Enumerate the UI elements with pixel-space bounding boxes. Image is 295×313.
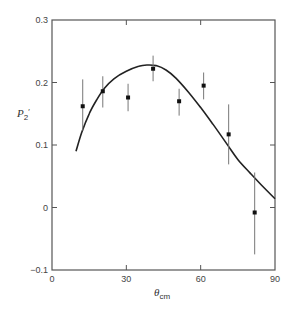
x-tick-label: 0 [49, 274, 54, 284]
point-marker [227, 132, 231, 136]
y-tick-labels: −0.100.10.20.3 [30, 15, 48, 275]
y-tick-label: 0.2 [35, 78, 48, 88]
data-point [101, 76, 105, 107]
data-point [202, 73, 206, 100]
data-point [253, 173, 257, 255]
y-axis-label: P2′ [16, 107, 30, 122]
point-marker [202, 84, 206, 88]
point-marker [177, 99, 181, 103]
x-tick-label: 30 [121, 274, 131, 284]
x-tick-label: 90 [270, 274, 280, 284]
data-point [227, 104, 231, 164]
x-tick-labels: 0306090 [49, 274, 280, 284]
data-point [151, 56, 155, 82]
y-tick-label: 0 [43, 203, 48, 213]
x-axis-label: θcm [154, 286, 170, 301]
curve-path [76, 65, 275, 199]
theory-curve [76, 65, 275, 199]
x-tick-label: 60 [196, 274, 206, 284]
data-point [81, 79, 85, 130]
point-marker [126, 96, 130, 100]
y-tick-label: 0.1 [35, 140, 48, 150]
y-tick-label: −0.1 [30, 265, 48, 275]
chart-canvas: 0306090 −0.100.10.20.3 P2′ θcm [0, 0, 295, 313]
point-marker [151, 67, 155, 71]
point-marker [253, 211, 257, 215]
data-point [126, 84, 130, 112]
plot-frame [52, 20, 275, 270]
y-tick-label: 0.3 [35, 15, 48, 25]
point-marker [101, 89, 105, 93]
axis-ticks [52, 20, 275, 270]
point-marker [81, 104, 85, 108]
plot-border [52, 20, 275, 270]
data-point [177, 89, 181, 116]
